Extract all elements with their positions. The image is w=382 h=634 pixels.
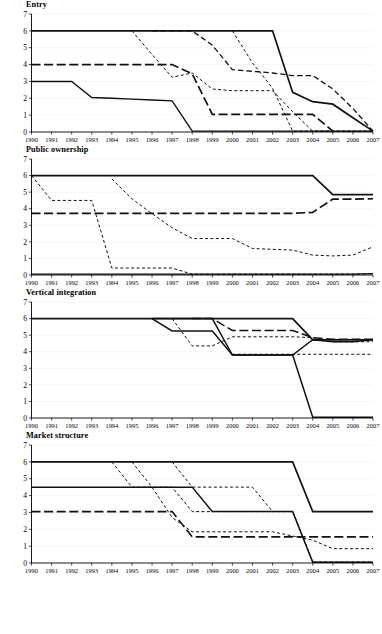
x-tick-label: 1999 xyxy=(206,279,219,286)
y-tick-label: 5 xyxy=(23,43,27,52)
x-tick-label: 1997 xyxy=(166,279,180,286)
line-series-b xyxy=(152,319,373,418)
y-tick-label: 3 xyxy=(23,364,27,373)
line-series-c xyxy=(32,176,374,275)
y-tick-label: 7 xyxy=(23,298,27,307)
x-tick-label: 1991 xyxy=(45,567,58,574)
line-series-b xyxy=(32,487,374,562)
x-tick-label: 1992 xyxy=(65,422,78,429)
x-tick-label: 2002 xyxy=(266,136,279,143)
gridlines xyxy=(32,159,374,258)
y-tick-label: 2 xyxy=(23,238,27,247)
plot-area: 0123456719901991199219931994199519961997… xyxy=(0,10,382,145)
y-tick-label: 5 xyxy=(23,474,27,483)
x-tick-label: 1990 xyxy=(25,136,38,143)
x-tick-label: 1991 xyxy=(45,279,58,286)
line-series-c xyxy=(32,512,374,537)
y-tick-label: 5 xyxy=(23,188,27,197)
gridlines xyxy=(32,445,374,546)
y-tick-label: 6 xyxy=(23,314,27,323)
x-tick-label: 1990 xyxy=(25,279,38,286)
x-tick-label: 1991 xyxy=(45,136,58,143)
x-tick-label: 2005 xyxy=(326,422,339,429)
x-tick-label: 2006 xyxy=(347,422,360,429)
x-tick-label: 1993 xyxy=(85,279,98,286)
x-tick-label: 1997 xyxy=(166,567,180,574)
x-tick-label: 1998 xyxy=(186,279,199,286)
x-tick-label: 2005 xyxy=(326,136,339,143)
x-tick-label: 2005 xyxy=(326,279,339,286)
y-axis-ticks: 01234567 xyxy=(23,441,31,568)
x-tick-label: 1993 xyxy=(85,422,98,429)
series-group xyxy=(32,319,374,418)
chart-svg: 0123456719901991199219931994199519961997… xyxy=(0,155,382,288)
line-series-d xyxy=(192,319,373,340)
x-tick-label: 2001 xyxy=(246,279,259,286)
y-axis-ticks: 01234567 xyxy=(23,10,31,137)
x-tick-label: 1995 xyxy=(126,567,139,574)
x-tick-label: 2007 xyxy=(367,422,381,429)
x-tick-label: 1997 xyxy=(166,422,180,429)
chart-svg: 0123456719901991199219931994199519961997… xyxy=(0,441,382,576)
y-tick-label: 1 xyxy=(23,254,27,263)
x-tick-label: 1991 xyxy=(45,422,58,429)
x-tick-label: 1990 xyxy=(25,567,38,574)
line-series-d xyxy=(112,179,373,256)
x-tick-label: 1990 xyxy=(25,422,38,429)
chart-panel-3: Vertical integration01234567199019911992… xyxy=(0,288,382,431)
line-series-b xyxy=(32,199,374,214)
x-tick-label: 2000 xyxy=(226,136,239,143)
x-axis-ticks: 1990199119921993199419951996199719981999… xyxy=(25,418,380,429)
chart-svg: 0123456719901991199219931994199519961997… xyxy=(0,298,382,431)
y-tick-label: 1 xyxy=(23,111,27,120)
x-tick-label: 1992 xyxy=(65,567,78,574)
x-tick-label: 2006 xyxy=(347,567,360,574)
x-tick-label: 2007 xyxy=(367,136,381,143)
x-tick-label: 1995 xyxy=(126,136,139,143)
x-tick-label: 2003 xyxy=(286,422,299,429)
x-tick-label: 2000 xyxy=(226,279,239,286)
line-series-d xyxy=(132,31,373,131)
line-series-e xyxy=(132,462,373,549)
panel-title: Entry xyxy=(0,0,382,10)
y-tick-label: 6 xyxy=(23,458,27,467)
x-tick-label: 2007 xyxy=(367,279,381,286)
plot-area: 0123456719901991199219931994199519961997… xyxy=(0,155,382,288)
x-tick-label: 1996 xyxy=(146,422,159,429)
chart-panel-4: Market structure012345671990199119921993… xyxy=(0,431,382,576)
x-tick-label: 2004 xyxy=(306,422,320,429)
y-tick-label: 2 xyxy=(23,381,27,390)
x-tick-label: 2001 xyxy=(246,136,259,143)
x-tick-label: 2005 xyxy=(326,567,339,574)
y-tick-label: 6 xyxy=(23,171,27,180)
line-series-a xyxy=(32,319,374,340)
x-tick-label: 2004 xyxy=(306,279,320,286)
x-tick-label: 1999 xyxy=(206,567,219,574)
x-tick-label: 2004 xyxy=(306,567,320,574)
gridlines xyxy=(32,302,374,401)
x-tick-label: 1996 xyxy=(146,567,159,574)
series-group xyxy=(32,31,374,131)
y-tick-label: 3 xyxy=(23,77,27,86)
y-tick-label: 7 xyxy=(23,10,27,19)
x-tick-label: 2001 xyxy=(246,567,259,574)
x-tick-label: 1993 xyxy=(85,136,98,143)
x-tick-label: 1995 xyxy=(126,279,139,286)
x-tick-label: 1998 xyxy=(186,567,199,574)
y-tick-label: 3 xyxy=(23,221,27,230)
figure-multi-panel-line-charts: Entry01234567199019911992199319941995199… xyxy=(0,0,382,634)
x-tick-label: 1994 xyxy=(105,136,119,143)
y-axis-ticks: 01234567 xyxy=(23,155,31,280)
y-tick-label: 2 xyxy=(23,94,27,103)
y-tick-label: 6 xyxy=(23,27,27,36)
y-tick-label: 4 xyxy=(23,204,27,213)
plot-area: 0123456719901991199219931994199519961997… xyxy=(0,298,382,431)
y-tick-label: 4 xyxy=(23,60,27,69)
line-series-e xyxy=(152,31,373,131)
x-tick-label: 1999 xyxy=(206,136,219,143)
x-tick-label: 2006 xyxy=(347,279,360,286)
y-tick-label: 3 xyxy=(23,508,27,517)
y-axis-ticks: 01234567 xyxy=(23,298,31,423)
x-tick-label: 2002 xyxy=(266,422,279,429)
x-tick-label: 1999 xyxy=(206,422,219,429)
